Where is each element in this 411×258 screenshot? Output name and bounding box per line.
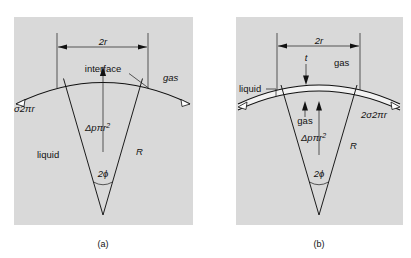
- half-angle-label: 2ϕ: [313, 168, 325, 179]
- panel-b-caption: (b): [314, 239, 325, 249]
- pressure-force-exponent: 2: [321, 132, 326, 139]
- diameter-label: 2r: [314, 35, 324, 46]
- gas-top-label: gas: [334, 57, 350, 68]
- panel-b: 2r t gas liquid gas 2σ2πr Δpπr2 R 2ϕ (b): [0, 0, 411, 258]
- thickness-label: t: [305, 52, 308, 63]
- panel-b-plate: [236, 17, 403, 225]
- radius-label: R: [350, 140, 357, 151]
- liquid-label: liquid: [239, 83, 261, 94]
- pressure-force-base: Δpπr: [300, 132, 323, 143]
- surface-tension-label: 2σ2πr: [360, 109, 388, 120]
- figure-root: 2r interface gas σ2πr liquid Δpπr2 R 2ϕ …: [0, 0, 411, 258]
